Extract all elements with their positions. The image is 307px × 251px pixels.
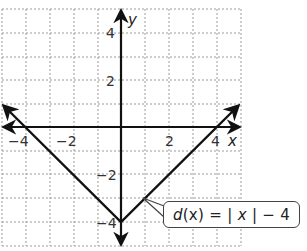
y-tick-label: 2	[106, 73, 115, 89]
y-tick-label: −4	[96, 215, 117, 231]
x-tick-label: 4	[211, 133, 220, 149]
y-tick-label: 4	[106, 25, 115, 41]
function-rest: | − 4	[247, 206, 290, 224]
x-tick-label: −2	[56, 133, 77, 149]
y-tick-label: −2	[96, 167, 117, 183]
function-var: (x)	[183, 206, 204, 224]
y-axis-label: y	[127, 11, 138, 29]
function-name: d	[173, 206, 183, 224]
x-tick-label: 2	[165, 133, 174, 149]
function-x: x	[238, 206, 247, 224]
x-axis-label: x	[227, 132, 237, 150]
function-eq: = |	[204, 206, 237, 224]
x-tick-label: −4	[8, 133, 29, 149]
function-label: d(x) = | x | − 4	[163, 201, 300, 228]
callout-pointer	[143, 198, 164, 217]
